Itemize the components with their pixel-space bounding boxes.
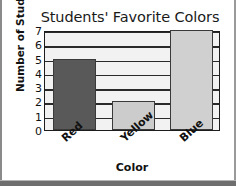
- plot-area: [44, 31, 220, 131]
- y-axis-tick-labels: 76543210: [27, 31, 42, 131]
- y-tick-1: 1: [27, 111, 42, 122]
- page-border-left: [0, 0, 2, 186]
- x-axis-label: Color: [44, 161, 220, 174]
- y-tick-7: 7: [27, 26, 42, 37]
- chart-page: Students' Favorite Colors Number of Stud…: [0, 0, 236, 186]
- y-tick-5: 5: [27, 54, 42, 65]
- plot-inner: [45, 32, 219, 130]
- y-tick-3: 3: [27, 83, 42, 94]
- chart-title: Students' Favorite Colors: [30, 9, 230, 25]
- y-axis-label: Number of Students: [14, 0, 26, 92]
- y-tick-6: 6: [27, 40, 42, 51]
- page-border-right: [234, 0, 236, 181]
- bar-red: [53, 59, 96, 130]
- y-tick-2: 2: [27, 97, 42, 108]
- x-axis-category-labels: RedYellowBlue: [44, 131, 220, 161]
- bar-blue: [170, 30, 213, 130]
- y-tick-0: 0: [27, 126, 42, 137]
- page-border-bottom: [0, 181, 236, 186]
- y-tick-4: 4: [27, 68, 42, 79]
